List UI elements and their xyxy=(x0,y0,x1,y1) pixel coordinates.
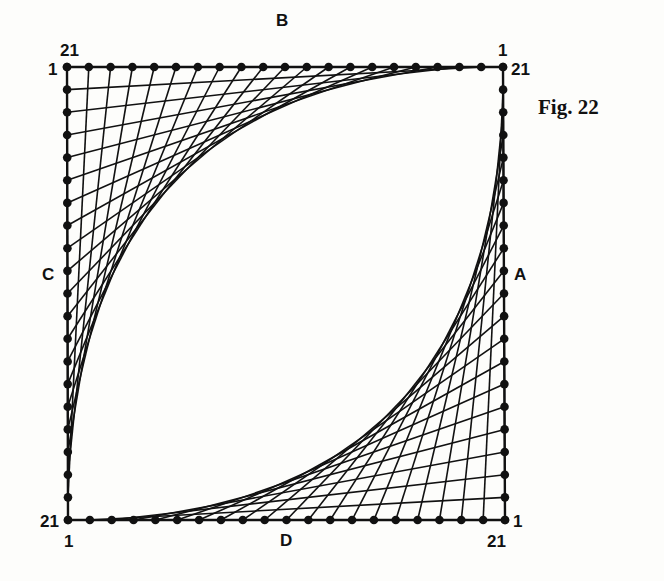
nail-dot xyxy=(477,63,486,72)
string-line xyxy=(439,135,503,520)
nail-dot xyxy=(64,425,73,434)
corner-label-bottom-left-1: 1 xyxy=(64,533,73,550)
nail-dot xyxy=(259,63,268,72)
nail-dot xyxy=(500,357,509,366)
corner-label-top-left-1: 1 xyxy=(48,61,57,78)
string-art-figure xyxy=(0,0,664,581)
nail-dot xyxy=(500,335,509,344)
nail-dot xyxy=(500,425,509,434)
nail-dot xyxy=(63,131,72,140)
corner-label-bottom-right-21: 21 xyxy=(487,533,506,550)
nail-dot xyxy=(499,131,508,140)
string-line xyxy=(68,67,133,452)
nail-dot xyxy=(457,516,466,525)
nail-dot xyxy=(63,153,72,162)
string-lines xyxy=(67,67,505,520)
nail-dot xyxy=(326,516,335,525)
nail-dot xyxy=(63,402,72,411)
nail-dot xyxy=(500,244,509,253)
string-line xyxy=(483,90,503,520)
nail-dot xyxy=(500,289,509,298)
nail-dot xyxy=(129,516,138,525)
nail-dot xyxy=(346,63,355,72)
nail-dot xyxy=(500,312,509,321)
nail-dot xyxy=(63,380,72,389)
nail-dot xyxy=(85,63,94,72)
nail-dots xyxy=(63,63,510,525)
nail-dot xyxy=(63,312,72,321)
corner-label-top-left-21: 21 xyxy=(60,42,79,59)
nail-dot xyxy=(413,516,422,525)
nail-dot xyxy=(499,63,508,72)
nail-dot xyxy=(368,63,377,72)
square-frame xyxy=(67,67,505,520)
nail-dot xyxy=(63,108,72,117)
nail-dot xyxy=(151,516,160,525)
nail-dot xyxy=(173,516,182,525)
nail-dot xyxy=(64,448,73,457)
side-label-b: B xyxy=(276,12,288,29)
nail-dot xyxy=(281,63,290,72)
nail-dot xyxy=(128,63,137,72)
nail-dot xyxy=(499,199,508,208)
nail-dot xyxy=(194,63,203,72)
string-line xyxy=(68,67,111,475)
nail-dot xyxy=(239,516,248,525)
nail-dot xyxy=(64,493,73,502)
nail-dot xyxy=(370,516,379,525)
corner-label-top-right-1: 1 xyxy=(498,42,507,59)
nail-dot xyxy=(217,516,226,525)
nail-dot xyxy=(391,516,400,525)
side-label-a: A xyxy=(514,266,526,283)
nail-dot xyxy=(63,63,72,72)
corner-label-bottom-right-1: 1 xyxy=(513,513,522,530)
nail-dot xyxy=(260,516,269,525)
nail-dot xyxy=(501,470,510,479)
nail-dot xyxy=(499,176,508,185)
string-line xyxy=(68,67,89,497)
nail-dot xyxy=(435,516,444,525)
nail-dot xyxy=(63,289,72,298)
nail-dot xyxy=(215,63,224,72)
nail-dot xyxy=(412,63,421,72)
nail-dot xyxy=(86,516,95,525)
nail-dot xyxy=(500,380,509,389)
side-label-c: C xyxy=(42,266,54,283)
corner-label-bottom-left-21: 21 xyxy=(40,513,59,530)
nail-dot xyxy=(499,108,508,117)
side-label-d: D xyxy=(280,532,292,549)
nail-dot xyxy=(63,85,72,94)
nail-dot xyxy=(63,244,72,253)
nail-dot xyxy=(499,221,508,230)
corner-label-top-right-21: 21 xyxy=(511,61,530,78)
nail-dot xyxy=(348,516,357,525)
nail-dot xyxy=(500,267,509,276)
nail-dot xyxy=(64,470,73,479)
nail-dot xyxy=(195,516,204,525)
nail-dot xyxy=(479,516,488,525)
nail-dot xyxy=(500,448,509,457)
nail-dot xyxy=(106,63,115,72)
nail-dot xyxy=(172,63,181,72)
nail-dot xyxy=(63,176,72,185)
nail-dot xyxy=(63,335,72,344)
nail-dot xyxy=(303,63,312,72)
square-outline xyxy=(67,67,505,520)
nail-dot xyxy=(433,63,442,72)
nail-dot xyxy=(324,63,333,72)
nail-dot xyxy=(64,516,73,525)
nail-dot xyxy=(150,63,159,72)
nail-dot xyxy=(63,357,72,366)
nail-dot xyxy=(63,199,72,208)
nail-dot xyxy=(107,516,116,525)
nail-dot xyxy=(501,516,510,525)
nail-dot xyxy=(304,516,313,525)
nail-dot xyxy=(501,493,510,502)
figure-caption: Fig. 22 xyxy=(538,97,599,118)
nail-dot xyxy=(390,63,399,72)
nail-dot xyxy=(455,63,464,72)
nail-dot xyxy=(499,153,508,162)
nail-dot xyxy=(499,85,508,94)
nail-dot xyxy=(500,402,509,411)
nail-dot xyxy=(237,63,246,72)
